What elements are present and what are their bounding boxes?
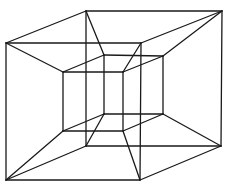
edge-outer-front-tr-to-outer-front-br	[140, 43, 141, 180]
hypercube-edges	[6, 11, 222, 180]
edge-outer-back-tl-to-inner-back-tl	[86, 11, 104, 55]
edge-outer-front-tl-to-outer-back-tl	[6, 11, 86, 43]
edge-outer-front-tr-to-inner-front-tr	[123, 43, 141, 72]
edge-outer-front-bl-to-inner-front-bl	[6, 131, 63, 180]
edge-outer-front-tr-to-outer-back-tr	[141, 11, 222, 43]
edge-inner-front-br-to-inner-back-br	[123, 114, 163, 131]
edge-outer-front-br-to-inner-front-br	[123, 131, 140, 180]
edge-outer-front-bl-to-outer-back-bl	[6, 146, 86, 180]
edge-outer-back-tr-to-outer-back-br	[221, 11, 222, 146]
edge-outer-back-br-to-inner-back-br	[163, 114, 221, 146]
edge-outer-front-br-to-outer-back-br	[140, 146, 221, 180]
edge-inner-front-tl-to-inner-back-tl	[63, 55, 104, 72]
edge-inner-front-tr-to-inner-back-tr	[123, 56, 163, 72]
edge-outer-back-tr-to-inner-back-tr	[163, 11, 222, 56]
edge-inner-front-bl-to-inner-back-bl	[63, 114, 104, 131]
edge-outer-front-tl-to-inner-front-tl	[6, 43, 63, 72]
hypercube-diagram	[0, 0, 228, 187]
edge-outer-back-bl-to-inner-back-bl	[86, 114, 104, 146]
